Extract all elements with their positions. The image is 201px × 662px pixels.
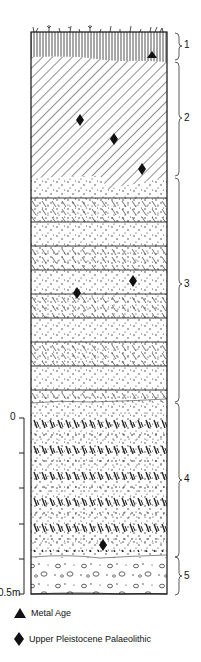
diamond-icon [14, 632, 24, 646]
stratigraphic-section [0, 0, 201, 662]
layer-5-label: 5 [184, 570, 190, 581]
layer-4-label: 4 [184, 473, 190, 484]
layer-2 [31, 57, 167, 191]
layer-3 [31, 176, 167, 403]
grass-surface [33, 25, 163, 32]
legend-item-palaeolithic: Upper Pleistocene Palaeolithic [14, 632, 151, 646]
triangle-icon [14, 608, 26, 618]
scale-bottom-label: 0.5m [0, 587, 20, 598]
legend-label: Metal Age [31, 608, 71, 618]
layer-3-label: 3 [184, 278, 190, 289]
scale-top-label: 0 [10, 411, 16, 422]
layer-1-label: 1 [184, 39, 190, 50]
layer-2-label: 2 [184, 112, 190, 123]
layer-brackets [175, 33, 182, 595]
legend-label: Upper Pleistocene Palaeolithic [29, 634, 151, 644]
layer-5 [31, 555, 167, 594]
scale-bar [19, 418, 24, 594]
layer-4 [31, 399, 167, 556]
legend-item-metal-age: Metal Age [14, 608, 71, 618]
